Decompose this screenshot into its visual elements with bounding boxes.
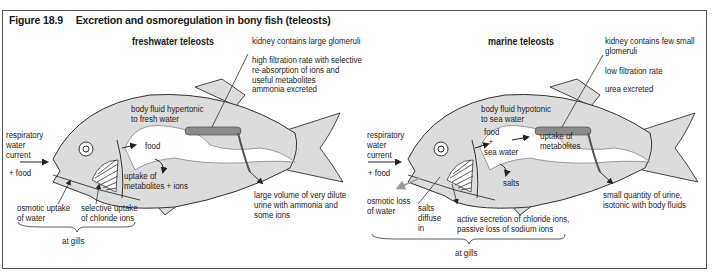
fw-food-label: food <box>145 141 160 151</box>
fw-plus-food-label: + food <box>9 168 31 178</box>
mr-respiratory-label: respiratory water current <box>367 130 404 160</box>
mr-salts-diffuse-label: salts diffuse in <box>418 203 441 233</box>
fw-osmotic-label: osmotic uptake of water <box>17 203 70 223</box>
mr-filtration-label: low filtration rate <box>605 66 663 76</box>
mr-urine-label: small quantity of urine, isotonic with b… <box>603 190 686 210</box>
fw-urine-label: large volume of very dilute urine with a… <box>254 190 346 220</box>
marine-gills-bracket <box>372 234 565 244</box>
mr-kidney-label: kidney contains few small glomeruli <box>605 36 695 56</box>
fw-respiratory-label: respiratory water current <box>6 130 43 160</box>
fw-filtration-label: high filtration rate with selective re-a… <box>252 55 362 85</box>
fw-selective-label: selective uptake of chloride ions <box>81 203 138 223</box>
mr-osmotic-label: osmotic loss of water <box>367 196 410 216</box>
mr-at-gills-label: at gills <box>455 248 477 258</box>
freshwater-heading: freshwater teleosts <box>132 36 214 47</box>
freshwater-gills-bracket <box>18 222 135 232</box>
fw-kidney-label: kidney contains large glomeruli <box>252 36 360 46</box>
mr-salts-label: salts <box>503 178 519 188</box>
mr-excretion-label: urea excreted <box>605 84 653 94</box>
mr-active-label: active secretion of chloride ions, passi… <box>457 214 569 234</box>
fw-excretion-label: ammonia excreted <box>252 84 317 94</box>
fw-at-gills-label: at gills <box>62 236 84 246</box>
mr-uptake-label: uptake of metabolites <box>540 131 580 151</box>
fw-body-fluid-label: body fluid hypertonic to fresh water <box>131 104 203 124</box>
fw-uptake-label: uptake of metabolites + ions <box>124 171 188 191</box>
freshwater-kidney <box>185 127 241 135</box>
mr-food-sea-label: food + sea water <box>484 127 518 157</box>
marine-heading: marine teleosts <box>488 36 554 47</box>
mr-body-fluid-label: body fluid hypotonic to sea water <box>481 104 551 124</box>
mr-plus-food-label: + food <box>368 168 390 178</box>
